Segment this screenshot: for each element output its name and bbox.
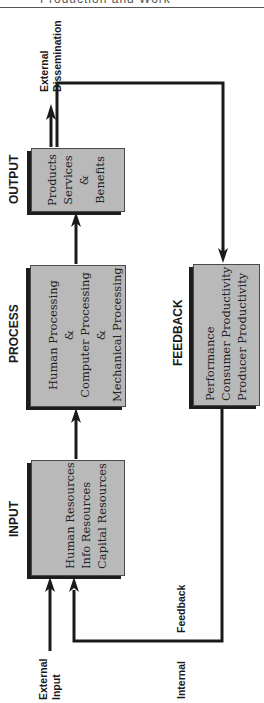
feedback-box-content: Performance Consumer Productivity Produc… bbox=[202, 267, 250, 401]
output-line-amp: & bbox=[76, 151, 92, 209]
output-box-content: Products Services & Benefits bbox=[44, 151, 108, 209]
feedback-line-performance: Performance bbox=[202, 267, 218, 401]
arrow-input-to-process bbox=[71, 408, 81, 459]
input-line-human: Human Resources bbox=[62, 465, 78, 569]
input-box: Human Resources Info Resources Capital R… bbox=[31, 460, 125, 576]
process-line-amp-1: & bbox=[61, 268, 77, 402]
process-box: Human Processing & Computer Processing &… bbox=[30, 265, 126, 407]
input-line-capital: Capital Resources bbox=[94, 465, 110, 569]
external-dissemination-label: External Dissemination bbox=[38, 20, 64, 92]
process-box-content: Human Processing & Computer Processing &… bbox=[45, 268, 125, 402]
output-title: OUTPUT bbox=[7, 155, 21, 204]
arrow-external-input bbox=[45, 577, 55, 651]
process-line-mechanical: Mechanical Processing bbox=[109, 268, 125, 402]
arrow-output-to-dissemination bbox=[46, 104, 56, 147]
feedback-line-producer: Producer Productivity bbox=[234, 267, 250, 401]
internal-label: Internal bbox=[175, 661, 188, 699]
input-box-content: Human Resources Info Resources Capital R… bbox=[62, 465, 110, 569]
input-title: INPUT bbox=[7, 501, 21, 537]
process-line-amp-2: & bbox=[93, 268, 109, 402]
output-line-products: Products bbox=[44, 151, 60, 209]
process-line-human: Human Processing bbox=[45, 268, 61, 402]
process-title: PROCESS bbox=[7, 304, 21, 363]
external-input-label: External Input bbox=[37, 659, 63, 700]
feedback-title: FEEDBACK bbox=[171, 299, 185, 366]
process-line-computer: Computer Processing bbox=[77, 268, 93, 402]
feedback-box: Performance Consumer Productivity Produc… bbox=[193, 264, 260, 406]
external-dissemination-line-1: External bbox=[38, 20, 51, 92]
arrow-process-to-output bbox=[71, 212, 81, 264]
output-box: Products Services & Benefits bbox=[31, 148, 125, 212]
output-line-services: Services bbox=[60, 151, 76, 209]
feedback-loop-label: Feedback bbox=[175, 585, 188, 633]
external-dissemination-line-2: Dissemination bbox=[51, 20, 64, 92]
external-input-line-1: External bbox=[37, 659, 50, 700]
feedback-line-consumer: Consumer Productivity bbox=[218, 267, 234, 401]
input-line-info: Info Resources bbox=[78, 465, 94, 569]
external-input-line-2: Input bbox=[50, 659, 63, 700]
output-line-benefits: Benefits bbox=[92, 151, 108, 209]
